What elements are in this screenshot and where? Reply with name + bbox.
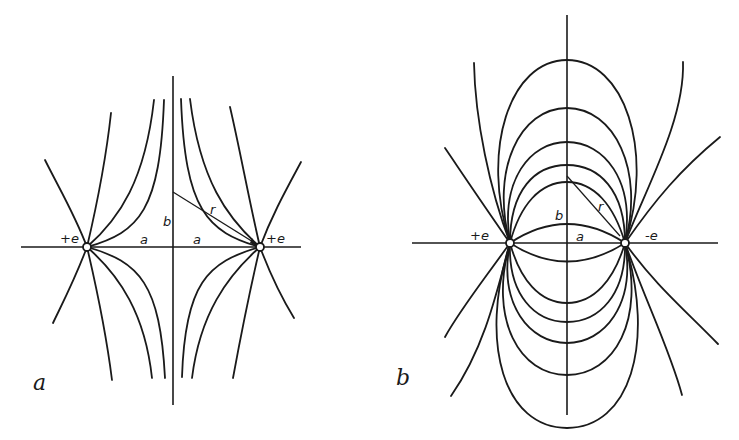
field-line: [260, 247, 294, 318]
field-lines-figure: +e +e a a b r a: [0, 0, 739, 440]
panel-a: +e +e a a b r a: [21, 76, 301, 405]
distance-a-label: a: [193, 232, 201, 247]
field-line: [625, 243, 718, 344]
height-b-label: b: [163, 214, 171, 229]
positive-charge-right: [256, 243, 264, 251]
panel-a-caption: a: [33, 370, 46, 395]
distance-r-label: r: [210, 202, 217, 217]
field-line: [53, 247, 87, 323]
distance-a-label: a: [140, 232, 148, 247]
charge-label: +e: [266, 231, 285, 246]
field-line: [625, 243, 682, 395]
field-line: [87, 100, 164, 247]
field-line: [87, 247, 112, 380]
panel-b-caption: b: [396, 365, 410, 390]
field-line: [445, 243, 510, 337]
positive-charge: [506, 239, 514, 247]
panel-b: +e -e a b r b: [396, 15, 720, 428]
field-line: [625, 62, 683, 243]
distance-a-label: a: [576, 229, 584, 244]
positive-charge-left: [83, 243, 91, 251]
panel-a-r-segment: [173, 192, 258, 245]
charge-label: +e: [470, 228, 489, 243]
field-line: [230, 107, 260, 247]
field-line: [625, 137, 720, 243]
charge-label: -e: [645, 228, 658, 243]
field-line: [87, 247, 152, 378]
field-line: [233, 247, 260, 378]
field-line: [87, 100, 154, 247]
negative-charge: [621, 239, 629, 247]
field-line: [87, 247, 165, 378]
field-line: [192, 247, 260, 378]
charge-label: +e: [60, 231, 79, 246]
height-b-label: b: [555, 208, 563, 223]
field-line: [182, 247, 260, 377]
field-line: [451, 243, 510, 396]
